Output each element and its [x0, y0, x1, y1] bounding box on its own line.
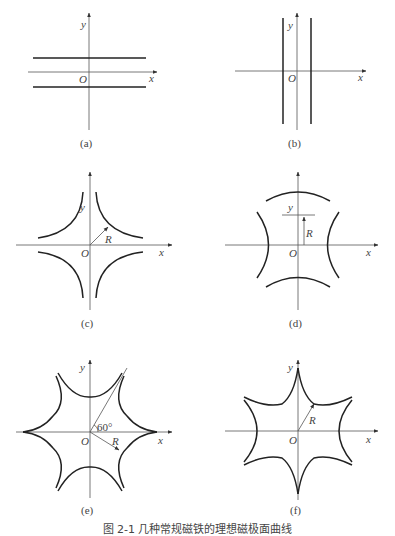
x-label: x: [157, 434, 163, 446]
origin-label: O: [81, 247, 89, 259]
panel-f: R y x O (f): [225, 360, 378, 517]
pole-lower-left: [244, 457, 298, 494]
origin-label: O: [81, 435, 89, 447]
pole-lower-left: [23, 432, 61, 488]
panel-label-e: (e): [81, 504, 94, 517]
y-label: y: [79, 361, 85, 373]
pole-upper-left: [244, 368, 298, 405]
panel-b: y x O (b): [235, 13, 366, 150]
pole-upper-right: [119, 376, 157, 432]
panel-label-a: (a): [80, 137, 93, 150]
panel-e: 60° R y x O (e): [16, 360, 172, 517]
y-label: y: [79, 201, 85, 213]
pole-lower-right: [298, 457, 352, 494]
y-label: y: [287, 19, 293, 31]
panel-label-c: (c): [81, 317, 94, 330]
panel-label-d: (d): [289, 317, 302, 330]
origin-label: O: [288, 72, 296, 84]
x-label: x: [365, 246, 371, 258]
radius-label: R: [104, 233, 112, 245]
origin-label: O: [289, 247, 297, 259]
figure-caption: 图 2-1 几种常规磁铁的理想磁极面曲线: [0, 520, 395, 536]
panel-label-f: (f): [290, 504, 301, 517]
pole-upper-left: [23, 376, 61, 432]
x-label: x: [158, 246, 164, 258]
origin-label: O: [289, 434, 297, 446]
origin-label: O: [79, 73, 87, 85]
pole-upper-right: [298, 368, 352, 405]
panel-c: R y x O (c): [16, 172, 172, 330]
pole-upper-right: [96, 192, 143, 238]
panel-label-b: (b): [288, 137, 301, 150]
pole-lower-left: [38, 252, 83, 298]
y-label: y: [80, 18, 86, 30]
panel-d: R y x O (d): [225, 172, 378, 330]
y-label: y: [287, 361, 293, 373]
angle-label: 60°: [97, 421, 112, 433]
x-label: x: [148, 72, 154, 84]
radius-label: R: [111, 435, 119, 447]
x-label: x: [357, 71, 363, 83]
pole-lower-right: [119, 432, 157, 488]
pole-upper-left: [38, 192, 83, 238]
y-label: y: [287, 201, 293, 213]
radius-label: R: [308, 414, 316, 426]
x-label: x: [365, 433, 371, 445]
panel-a: y x O (a): [28, 13, 157, 150]
pole-lower-right: [96, 252, 143, 298]
radius-label: R: [305, 227, 313, 239]
